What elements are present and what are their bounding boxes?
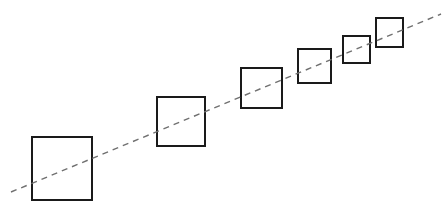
- diagram-svg: [0, 0, 448, 214]
- figure-canvas: [0, 0, 448, 214]
- figure-background: [0, 0, 448, 214]
